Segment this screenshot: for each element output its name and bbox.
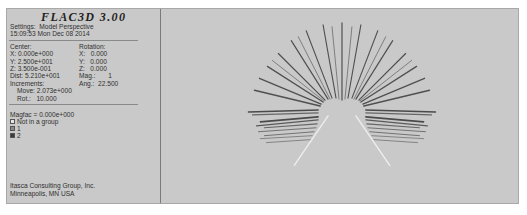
upper-rays [254,23,429,106]
horizontal-streaks-right [366,110,436,143]
swatch-icon [10,119,15,124]
legend-panel: FLAC3D 3.00 Settings: Model Perspective … [7,9,161,203]
view-row-increments: Increments: Ang.: 22.500 [7,80,160,87]
view-row-dist: Dist: 5.210e+001 Mag.: 1 [7,72,160,79]
center-y: Y: 2.500e+001 [7,58,76,65]
dist-value: Dist: 5.210e+001 [7,72,76,79]
legend-item-group-2: 2 [7,132,160,139]
rotation-label: Rotation: [76,43,105,50]
rotation-x: X: 0.000 [76,50,107,57]
center-rotation-header: Center: Rotation: [7,43,160,50]
center-x: X: 0.000e+000 [7,50,76,57]
view-row-x: X: 0.000e+000 X: 0.000 [7,50,160,57]
app-title: FLAC3D 3.00 [41,11,160,23]
view-row-z: Z: 3.500e-001 Z: 0.000 [7,65,160,72]
settings-text: Settings: Model Perspective [7,23,160,30]
center-z: Z: 3.500e-001 [7,65,76,72]
model-viewport[interactable] [161,9,518,203]
mag-value: Mag.: 1 [76,72,112,79]
company-name: Itasca Consulting Group, Inc. [10,182,95,189]
company-location: Minneapolis, MN USA [10,190,95,197]
timestamp: 15:09:53 Mon Dec 08 2014 [7,30,160,37]
company-footer: Itasca Consulting Group, Inc. Minneapoli… [10,182,95,197]
legend-label: Not in a group [17,118,58,125]
divider [9,40,138,41]
divider [9,104,138,105]
radial-model-rendering [161,9,518,203]
flac3d-plot-window: FLAC3D 3.00 Settings: Model Perspective … [6,8,519,204]
legend-item-not-in-group: Not in a group [7,118,160,125]
view-row-y: Y: 2.500e+001 Y: 0.000 [7,58,160,65]
light-rays [294,116,389,165]
horizontal-streaks-left [249,110,319,143]
swatch-icon [10,133,15,138]
rotation-z: Z: 0.000 [76,65,107,72]
ang-value: Ang.: 22.500 [76,80,118,87]
rotation-y: Y: 0.000 [76,58,107,65]
legend-label: 2 [17,132,21,139]
center-label: Center: [7,43,76,50]
rot-value: Rot.: 10.000 [7,95,160,102]
move-value: Move: 2.073e+000 [7,87,160,94]
swatch-icon [10,126,15,131]
legend-item-group-1: 1 [7,125,160,132]
increments-label: Increments: [7,80,76,87]
